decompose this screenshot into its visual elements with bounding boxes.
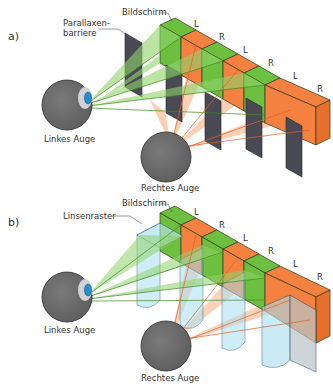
left-eye-iris-icon [85, 92, 92, 104]
pixel-label-l2: L [243, 45, 248, 55]
screen-label-b: Bildschirm [122, 198, 166, 208]
pixel-label-r1: R [219, 32, 225, 42]
barrier-label-line2: barriere [63, 28, 97, 38]
panel-a: a) [8, 7, 330, 193]
left-eye-label: Linkes Auge [44, 134, 95, 144]
pixel-label-b-r2: R [268, 246, 274, 256]
pixel-label-r2: R [268, 58, 274, 68]
barrier-label-line1: Parallaxen- [63, 18, 110, 28]
left-eye [42, 80, 92, 130]
barrier-callout-line [98, 29, 128, 36]
lens-callout-line [112, 216, 142, 224]
pixel-label-b-r1: R [219, 220, 225, 230]
pixel-label-l3: L [293, 71, 298, 81]
right-eye-ball [141, 132, 191, 182]
pixel-label-l1: L [194, 19, 199, 29]
left-eye-b [42, 272, 92, 322]
left-eye-label-b: Linkes Auge [44, 325, 95, 335]
right-eye-label-b: Rechtes Auge [141, 373, 199, 383]
pixel-label-b-r3: R [317, 272, 323, 282]
panel-a-label: a) [8, 30, 19, 43]
lens-label: Linsenraster [63, 211, 116, 221]
screen-label: Bildschirm [122, 7, 166, 17]
right-eye-b [141, 321, 191, 371]
left-eye-iris-icon-b [85, 284, 92, 296]
right-eye-label: Rechtes Auge [141, 183, 199, 193]
autostereoscopy-diagram: a) [0, 0, 333, 390]
panel-b-label: b) [8, 216, 19, 229]
pixel-label-b-l1: L [194, 207, 199, 217]
pixel-label-r3: R [317, 84, 323, 94]
right-eye [141, 132, 191, 182]
pixel-label-b-l2: L [243, 233, 248, 243]
right-eye-ball-b [141, 321, 191, 371]
pixel-label-b-l3: L [293, 259, 298, 269]
panel-b: b) [8, 198, 330, 383]
